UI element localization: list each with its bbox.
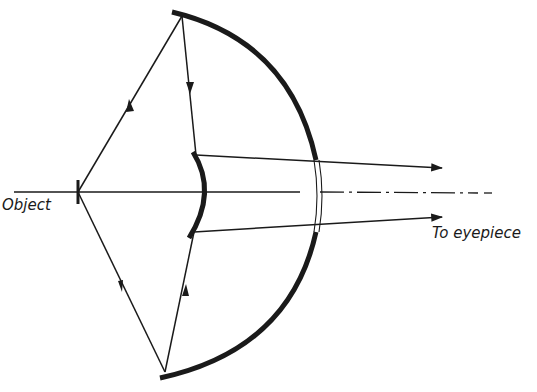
diagram-canvas xyxy=(0,0,537,392)
object-label: Object xyxy=(2,196,51,214)
secondary-mirror xyxy=(189,152,205,238)
ray-arrow-icon xyxy=(126,99,134,112)
optical-axis xyxy=(14,192,492,193)
upper-ray xyxy=(78,16,442,192)
ray-arrow-icon xyxy=(186,82,194,94)
primary-mirror-lower xyxy=(160,232,316,378)
lower-ray xyxy=(78,192,442,372)
primary-mirror-aperture xyxy=(314,160,322,232)
eyepiece-label: To eyepiece xyxy=(432,224,521,242)
ray-arrow-icon xyxy=(118,280,123,292)
